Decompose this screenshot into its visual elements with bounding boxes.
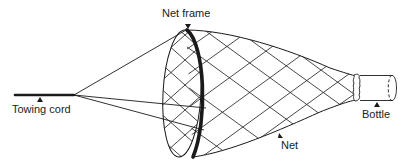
towing-cord-arrow-icon: [37, 97, 43, 102]
net-frame: [140, 0, 230, 165]
net-arrow-icon: [278, 133, 283, 138]
bottle: [353, 74, 397, 101]
label-pointers: [37, 24, 380, 138]
net: [100, 0, 410, 165]
bridle-lines: [74, 30, 206, 130]
net-frame-label: Net frame: [162, 8, 210, 19]
net-label: Net: [281, 140, 298, 151]
towing-cord-label: Towing cord: [12, 104, 71, 115]
bottle-arrow-icon: [374, 102, 380, 107]
plankton-net-diagram: [0, 0, 410, 165]
bottle-label: Bottle: [362, 109, 390, 120]
net-frame-arrow-icon: [185, 24, 191, 29]
